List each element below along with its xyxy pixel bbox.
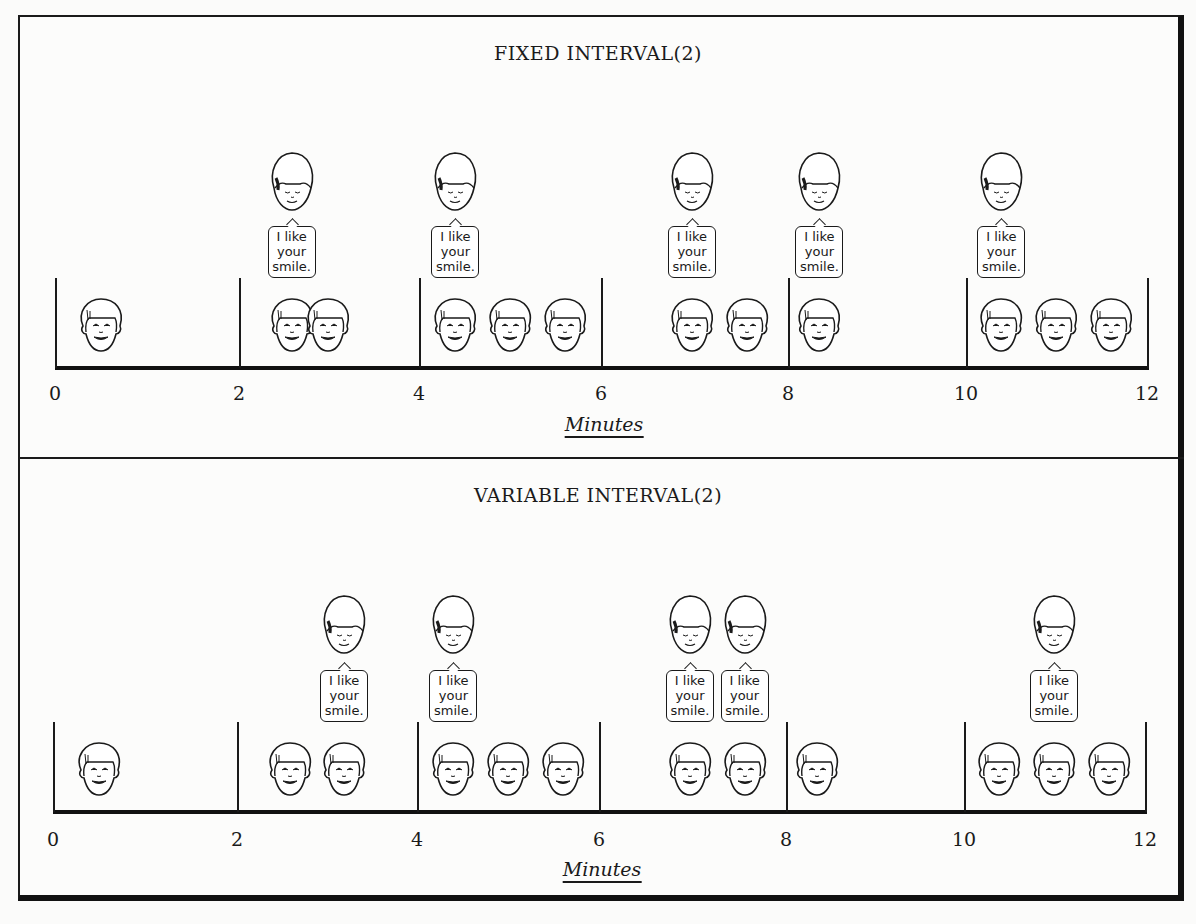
smiling-child-icon: [302, 296, 354, 354]
tick-label: 10: [952, 828, 976, 850]
axis-label: Minutes: [565, 413, 644, 438]
interval-divider: [53, 722, 55, 812]
smiling-child-icon: [721, 296, 773, 354]
smiling-child-icon: [793, 296, 845, 354]
interval-divider: [964, 722, 966, 812]
smiling-child-icon: [1085, 296, 1137, 354]
smiling-child-icon: [666, 296, 718, 354]
tick-label: 8: [780, 828, 792, 850]
tick-label: 8: [782, 382, 794, 404]
smiling-child-icon: [427, 740, 479, 798]
interval-divider: [599, 722, 601, 812]
speech-line: your: [269, 244, 315, 259]
speech-line: I like: [269, 229, 315, 244]
tick-label: 6: [595, 382, 607, 404]
interval-divider: [601, 278, 603, 368]
speech-bubble: I likeyoursmile.: [977, 226, 1025, 278]
speech-line: I like: [722, 673, 768, 688]
adult-face-icon: [427, 593, 479, 657]
speech-line: your: [722, 688, 768, 703]
speech-line: smile.: [978, 259, 1024, 274]
speech-bubble: I likeyoursmile.: [268, 226, 316, 278]
smiling-child-icon: [484, 296, 536, 354]
panel-title: FIXED INTERVAL(2): [0, 42, 1196, 64]
speech-line: your: [432, 244, 478, 259]
panel-divider: [18, 457, 1184, 459]
smiling-child-icon: [75, 296, 127, 354]
tick-label: 12: [1135, 382, 1159, 404]
speech-line: I like: [669, 229, 715, 244]
tick-label: 4: [413, 382, 425, 404]
smiling-child-icon: [73, 740, 125, 798]
interval-divider: [1147, 278, 1149, 368]
tick-label: 2: [231, 828, 243, 850]
adult-face-icon: [719, 593, 771, 657]
speech-line: smile.: [667, 703, 713, 718]
tick-label: 10: [954, 382, 978, 404]
smiling-child-icon: [318, 740, 370, 798]
adult-face-icon: [318, 593, 370, 657]
smiling-child-icon: [791, 740, 843, 798]
smiling-child-icon: [1083, 740, 1135, 798]
smiling-child-icon: [1028, 740, 1080, 798]
adult-face-icon: [975, 150, 1027, 214]
panel-title: VARIABLE INTERVAL(2): [0, 484, 1196, 506]
adult-face-icon: [1028, 593, 1080, 657]
speech-line: your: [978, 244, 1024, 259]
tick-label: 2: [233, 382, 245, 404]
smiling-child-icon: [264, 740, 316, 798]
smiling-child-icon: [975, 296, 1027, 354]
axis-label: Minutes: [563, 858, 642, 883]
tick-label: 12: [1133, 828, 1157, 850]
adult-face-icon: [429, 150, 481, 214]
speech-line: smile.: [669, 259, 715, 274]
speech-bubble: I likeyoursmile.: [795, 226, 843, 278]
speech-bubble: I likeyoursmile.: [429, 670, 477, 722]
speech-line: I like: [796, 229, 842, 244]
speech-bubble: I likeyoursmile.: [1030, 670, 1078, 722]
tick-label: 6: [593, 828, 605, 850]
speech-line: smile.: [432, 259, 478, 274]
interval-divider: [788, 278, 790, 368]
speech-line: smile.: [1031, 703, 1077, 718]
smiling-child-icon: [482, 740, 534, 798]
speech-line: your: [667, 688, 713, 703]
speech-line: I like: [430, 673, 476, 688]
interval-divider: [419, 278, 421, 368]
tick-label: 0: [49, 382, 61, 404]
speech-line: I like: [978, 229, 1024, 244]
adult-face-icon: [266, 150, 318, 214]
speech-line: I like: [432, 229, 478, 244]
interval-divider: [55, 278, 57, 368]
speech-line: smile.: [796, 259, 842, 274]
interval-divider: [1145, 722, 1147, 812]
interval-divider: [786, 722, 788, 812]
speech-line: smile.: [722, 703, 768, 718]
speech-line: smile.: [430, 703, 476, 718]
speech-bubble: I likeyoursmile.: [668, 226, 716, 278]
speech-line: I like: [667, 673, 713, 688]
speech-line: your: [430, 688, 476, 703]
speech-line: smile.: [321, 703, 367, 718]
smiling-child-icon: [1030, 296, 1082, 354]
interval-divider: [237, 722, 239, 812]
interval-divider: [239, 278, 241, 368]
interval-divider: [417, 722, 419, 812]
speech-line: I like: [1031, 673, 1077, 688]
smiling-child-icon: [429, 296, 481, 354]
speech-line: your: [321, 688, 367, 703]
speech-bubble: I likeyoursmile.: [320, 670, 368, 722]
speech-line: your: [1031, 688, 1077, 703]
smiling-child-icon: [537, 740, 589, 798]
smiling-child-icon: [973, 740, 1025, 798]
speech-line: smile.: [269, 259, 315, 274]
smiling-child-icon: [664, 740, 716, 798]
adult-face-icon: [793, 150, 845, 214]
speech-line: your: [669, 244, 715, 259]
speech-bubble: I likeyoursmile.: [721, 670, 769, 722]
speech-bubble: I likeyoursmile.: [431, 226, 479, 278]
speech-line: I like: [321, 673, 367, 688]
adult-face-icon: [666, 150, 718, 214]
speech-line: your: [796, 244, 842, 259]
speech-bubble: I likeyoursmile.: [666, 670, 714, 722]
